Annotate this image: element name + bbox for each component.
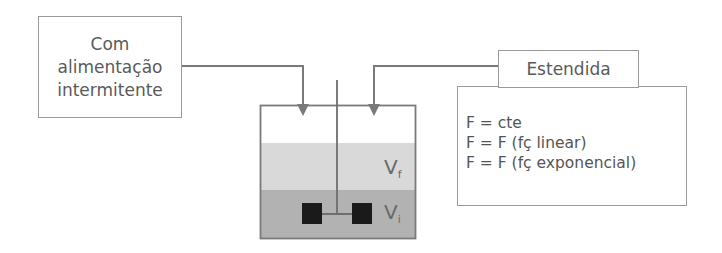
left-box-line: alimentação bbox=[57, 56, 163, 79]
volume-symbol: V bbox=[384, 200, 398, 224]
arrow-down-icon bbox=[368, 104, 380, 116]
feed-rate-formulas-box: F = cte F = F (fç linear) F = F (fç expo… bbox=[457, 86, 687, 206]
formula-exponential: F = F (fç exponencial) bbox=[466, 153, 686, 173]
volume-symbol: V bbox=[384, 155, 398, 179]
initial-volume-label: Vi bbox=[384, 200, 401, 226]
extended-feed-box: Estendida bbox=[498, 50, 639, 88]
feed-line-left bbox=[182, 66, 303, 104]
impeller-blade-left bbox=[302, 203, 322, 224]
impeller-blade-right bbox=[352, 203, 372, 224]
arrow-down-icon bbox=[297, 104, 309, 116]
final-volume-label: Vf bbox=[384, 155, 402, 181]
volume-subscript: i bbox=[398, 213, 401, 226]
formula-linear: F = F (fç linear) bbox=[466, 133, 686, 153]
intermittent-feed-box: Com alimentação intermitente bbox=[38, 16, 182, 118]
left-box-line: Com bbox=[57, 33, 163, 56]
extended-feed-label: Estendida bbox=[526, 59, 610, 79]
volume-subscript: f bbox=[398, 168, 402, 181]
formula-constant: F = cte bbox=[466, 113, 686, 133]
left-box-line: intermitente bbox=[57, 79, 163, 102]
